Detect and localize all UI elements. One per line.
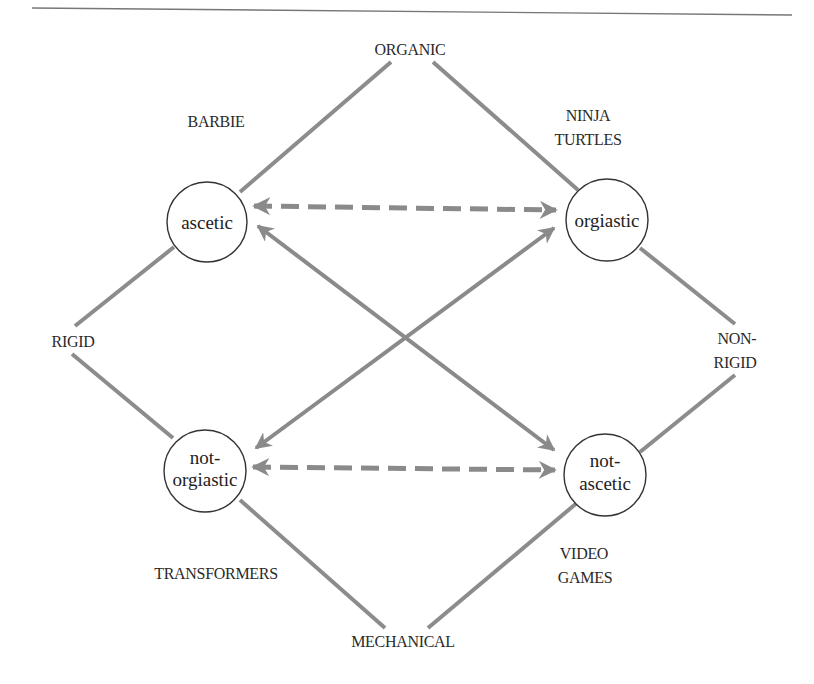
node-not-orgiastic-line1: not-	[190, 447, 221, 468]
pole-organic: ORGANIC	[375, 41, 446, 58]
example-ninja-turtles-line1: NINJA	[566, 107, 611, 124]
edge-rigid-ascetic	[75, 247, 174, 326]
edge-nonrigid-not-ascetic	[640, 375, 735, 452]
top-rule	[32, 8, 792, 15]
edge-nonrigid-orgiastic	[640, 248, 735, 324]
node-not-orgiastic-line2: orgiastic	[172, 469, 237, 490]
pole-rigid: RIGID	[52, 333, 95, 350]
pole-mechanical: MECHANICAL	[351, 633, 455, 650]
arrow-ascetic-orgiastic	[254, 206, 556, 210]
example-ninja-turtles-line2: TURTLES	[554, 131, 621, 148]
node-not-orgiastic: not- orgiastic	[164, 430, 246, 512]
example-barbie: BARBIE	[188, 113, 245, 130]
example-transformers: TRANSFORMERS	[154, 565, 278, 582]
pole-non-rigid-line2: RIGID	[714, 354, 757, 371]
pole-non-rigid-line1: NON-	[718, 330, 757, 347]
node-orgiastic: orgiastic	[566, 179, 648, 261]
node-not-ascetic-line2: ascetic	[579, 473, 631, 494]
edge-mechanical-not-orgiastic	[240, 500, 385, 628]
arrow-not-orgiastic-not-ascetic	[253, 467, 555, 470]
node-not-ascetic: not- ascetic	[564, 434, 646, 516]
node-orgiastic-label: orgiastic	[574, 210, 639, 231]
node-ascetic: ascetic	[167, 182, 247, 262]
example-video-games-line1: VIDEO	[560, 545, 608, 562]
edge-organic-orgiastic	[433, 62, 578, 190]
edge-mechanical-not-ascetic	[428, 502, 578, 628]
node-ascetic-label: ascetic	[181, 212, 233, 233]
edge-organic-ascetic	[240, 62, 391, 192]
example-video-games-line2: GAMES	[558, 569, 613, 586]
semiotic-square-diagram: ascetic orgiastic not- orgiastic not- as…	[0, 0, 814, 684]
edge-rigid-not-orgiastic	[72, 354, 173, 438]
node-not-ascetic-line1: not-	[590, 450, 621, 471]
